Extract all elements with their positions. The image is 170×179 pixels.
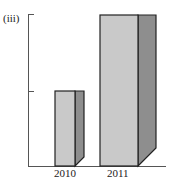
bar-chart bbox=[0, 0, 170, 179]
x-tick-label-2010: 2010 bbox=[54, 167, 76, 179]
bar-2010 bbox=[55, 91, 84, 166]
x-tick-label-2011: 2011 bbox=[107, 167, 129, 179]
bar-2011 bbox=[100, 15, 156, 166]
